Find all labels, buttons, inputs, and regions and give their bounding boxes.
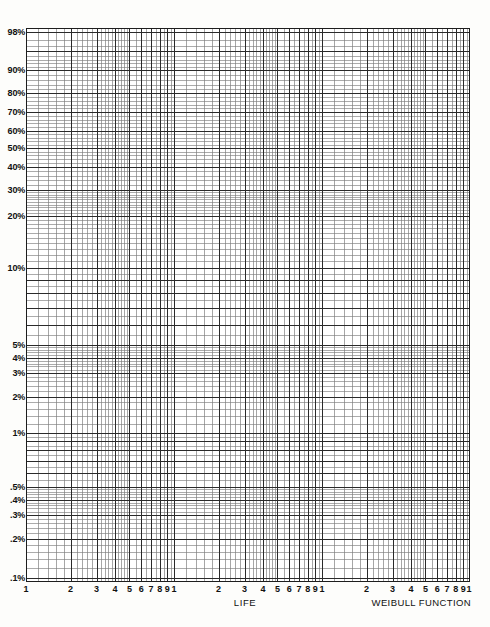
y-tick-label: 98%: [8, 28, 26, 37]
y-tick-label: .1%: [10, 574, 26, 583]
x-tick-label: 2: [68, 584, 73, 595]
y-tick-label: 60%: [8, 127, 26, 136]
x-tick-label: 2: [216, 584, 221, 595]
y-tick-label: 80%: [8, 89, 26, 98]
grid-lines: [26, 28, 470, 582]
x-tick-label: 7: [149, 584, 154, 595]
x-tick-label: 1: [466, 584, 471, 595]
x-tick-label: 6: [435, 584, 440, 595]
y-tick-label: 20%: [8, 212, 26, 221]
x-tick-label: 8: [157, 584, 162, 595]
y-tick-label: 70%: [8, 108, 26, 117]
x-tick-label: 3: [242, 584, 247, 595]
y-tick-label: 10%: [8, 264, 26, 273]
y-tick-label: .4%: [10, 496, 26, 505]
y-tick-label: 5%: [12, 341, 26, 350]
weibull-chart-sheet: 98%90%80%70%60%50%40%30%20%10%5%4%3%2%1%…: [0, 0, 490, 627]
y-tick-label: 2%: [12, 393, 26, 402]
y-tick-label: .5%: [10, 483, 26, 492]
y-tick-label: 50%: [8, 144, 26, 153]
x-tick-label: 9: [313, 584, 318, 595]
x-tick-label: 3: [390, 584, 395, 595]
y-tick-label: 90%: [8, 66, 26, 75]
x-tick-label: 5: [275, 584, 280, 595]
x-tick-label: 5: [423, 584, 428, 595]
x-tick-label: 4: [261, 584, 266, 595]
y-tick-label: 4%: [12, 354, 26, 363]
chart-caption: WEIBULL FUNCTION: [372, 597, 471, 608]
x-tick-label: 8: [305, 584, 310, 595]
x-tick-label: 4: [113, 584, 118, 595]
x-tick-label: 6: [287, 584, 292, 595]
plot-area: [26, 28, 470, 582]
x-tick-label: 7: [445, 584, 450, 595]
x-tick-label: 1: [171, 584, 176, 595]
y-tick-label: 3%: [12, 369, 26, 378]
y-tick-label: 1%: [12, 429, 26, 438]
y-axis-tick-labels: 98%90%80%70%60%50%40%30%20%10%5%4%3%2%1%…: [0, 28, 26, 582]
x-tick-label: 1: [23, 584, 28, 595]
x-tick-label: 7: [297, 584, 302, 595]
x-tick-label: 3: [94, 584, 99, 595]
x-tick-label: 9: [165, 584, 170, 595]
x-tick-label: 8: [453, 584, 458, 595]
x-tick-label: 2: [364, 584, 369, 595]
x-tick-label: 9: [461, 584, 466, 595]
x-axis-tick-labels: 1234567891234567891234567891: [26, 584, 470, 598]
x-tick-label: 6: [139, 584, 144, 595]
y-tick-label: .2%: [10, 535, 26, 544]
x-tick-label: 5: [127, 584, 132, 595]
y-tick-label: 40%: [8, 163, 26, 172]
x-tick-label: 1: [319, 584, 324, 595]
y-tick-label: 30%: [8, 186, 26, 195]
x-tick-label: 4: [409, 584, 414, 595]
y-tick-label: .3%: [10, 511, 26, 520]
